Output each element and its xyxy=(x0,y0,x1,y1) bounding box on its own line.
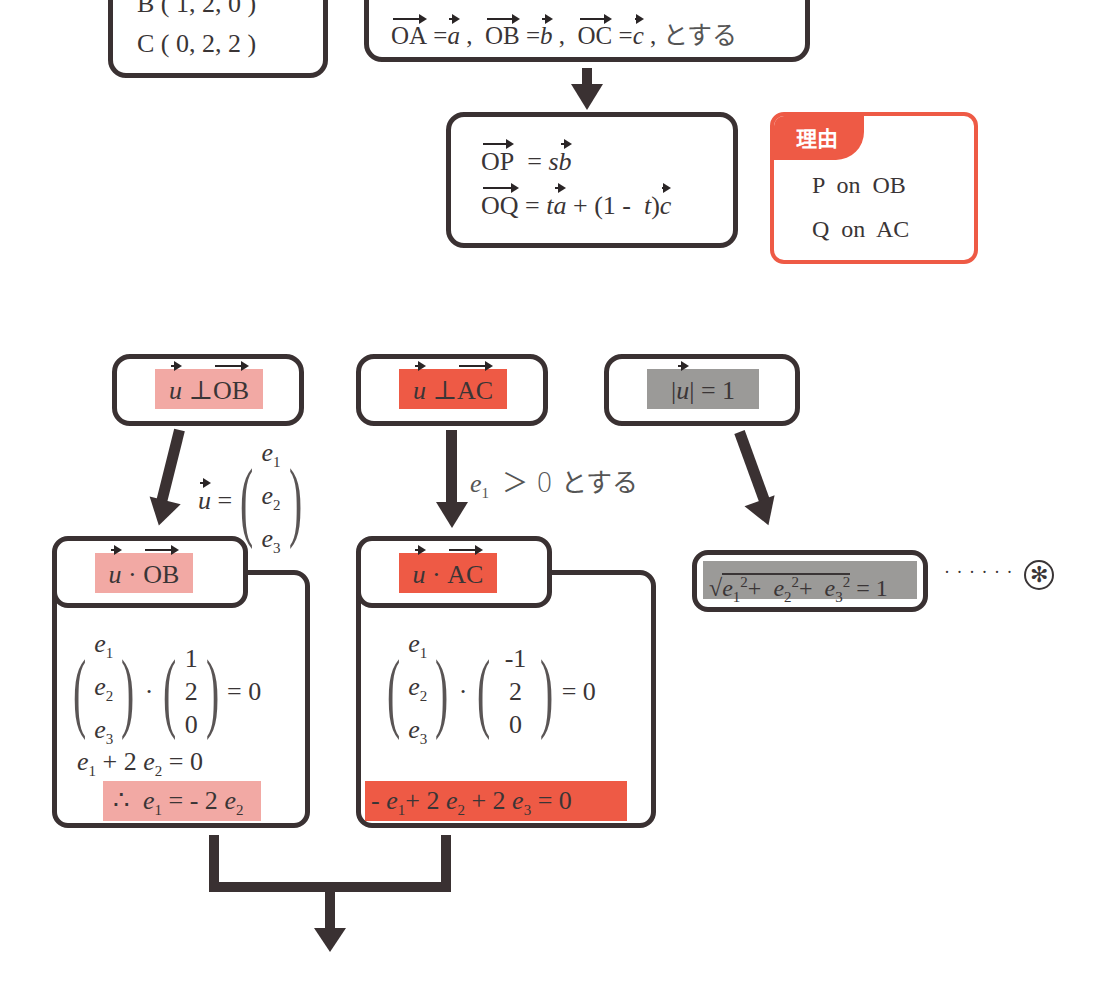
vec-b: b xyxy=(540,22,553,50)
norm-dots: · · · · · · xyxy=(944,562,1013,583)
arrow-down-icon xyxy=(143,497,180,530)
reason-line-2: Q on AC xyxy=(812,216,909,243)
merge-down-shaft xyxy=(325,890,335,930)
vec-c: c xyxy=(633,22,644,50)
arrow-shaft-3 xyxy=(734,430,771,507)
dot-ac-eq-1: ( e1 e2 e3 ) · ( -1 2 0 ) = 0 xyxy=(379,627,596,757)
unit-highlight: |u| = 1 xyxy=(647,369,759,409)
norm-box: √e12+ e22+ e32 = 1 xyxy=(692,550,928,612)
condition-perp-ob: u ⊥OB xyxy=(112,354,304,426)
dot-ac-panel: ( e1 e2 e3 ) · ( -1 2 0 ) = 0 - e1+ 2 e2… xyxy=(356,570,656,828)
arrow-down-icon xyxy=(571,84,603,110)
vec-oc: OC xyxy=(578,22,613,50)
dot-ob-panel: ( e1 e2 e3 ) · ( 1 2 0 ) = 0 e1 + 2 e2 =… xyxy=(52,570,310,828)
norm-highlight: √e12+ e22+ e32 = 1 xyxy=(703,561,917,599)
reason-tag: 理由 xyxy=(774,116,864,160)
position-box: OP = sb OQ = ta + (1 - t)c xyxy=(446,112,738,248)
op-equation: OP = sb xyxy=(481,147,572,177)
merge-right-leg xyxy=(441,835,451,887)
merge-left-leg xyxy=(209,835,219,887)
definition-suffix: とする xyxy=(663,21,737,50)
perp-ac-highlight: u ⊥AC xyxy=(399,369,507,409)
dot-ob-title: u · OB xyxy=(52,536,248,608)
arrow-down-icon xyxy=(314,928,346,952)
vec-oa: OA xyxy=(391,22,427,50)
points-box: B ( 1, 2, 0 ) C ( 0, 2, 2 ) xyxy=(108,0,328,78)
dot-ob-result: ∴ e1 = - 2 e2 xyxy=(103,781,261,821)
arrow-shaft-2 xyxy=(446,430,457,506)
condition-perp-ac: u ⊥AC xyxy=(356,354,548,426)
asterisk-marker-icon: ✻ xyxy=(1024,560,1054,590)
arrow-down-icon xyxy=(745,495,784,530)
arrow-down-icon xyxy=(436,502,468,528)
vec-a: a xyxy=(447,22,460,50)
arrow-shaft-1 xyxy=(155,429,185,507)
reason-line-1: P on OB xyxy=(812,172,906,199)
definition-text: OA =a , OB =b , OC =c , とする xyxy=(391,15,737,51)
dot-ob-eq-1: ( e1 e2 e3 ) · ( 1 2 0 ) = 0 xyxy=(65,627,261,757)
dot-ac-result: - e1+ 2 e2 + 2 e3 = 0 xyxy=(365,781,627,821)
oq-equation: OQ = ta + (1 - t)c xyxy=(481,191,671,221)
dot-ac-title: u · AC xyxy=(356,536,552,608)
vec-ob: OB xyxy=(485,22,520,50)
point-b: B ( 1, 2, 0 ) xyxy=(137,0,256,19)
dot-ob-eq-2: e1 + 2 e2 = 0 xyxy=(77,747,203,780)
condition-unit: |u| = 1 xyxy=(604,354,800,426)
point-c: C ( 0, 2, 2 ) xyxy=(137,29,256,59)
definition-box: OA =a , OB =b , OC =c , とする xyxy=(364,0,810,62)
reason-box: 理由 P on OB Q on AC xyxy=(770,112,978,264)
e1-positive-note: e1 ＞ 0 とする xyxy=(470,462,638,502)
perp-ob-highlight: u ⊥OB xyxy=(155,369,263,409)
